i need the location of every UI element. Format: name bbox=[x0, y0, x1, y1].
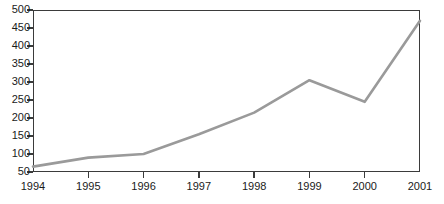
x-tick-label: 1997 bbox=[173, 180, 225, 192]
x-tick-mark bbox=[253, 172, 255, 178]
x-tick-mark bbox=[198, 172, 200, 178]
x-tick-mark bbox=[364, 172, 366, 178]
x-tick-mark bbox=[88, 172, 90, 178]
x-tick-label: 1995 bbox=[62, 180, 114, 192]
x-tick-label: 1999 bbox=[283, 180, 335, 192]
line-chart: 50100150200250300350400450500 1994199519… bbox=[0, 0, 444, 204]
x-tick-mark bbox=[309, 172, 311, 178]
x-tick-label: 2000 bbox=[339, 180, 391, 192]
x-tick-label: 1996 bbox=[118, 180, 170, 192]
x-axis: 19941995199619971998199920002001 bbox=[0, 0, 444, 204]
x-tick-label: 2001 bbox=[394, 180, 444, 192]
x-tick-label: 1994 bbox=[7, 180, 59, 192]
x-tick-mark bbox=[143, 172, 145, 178]
x-tick-label: 1998 bbox=[228, 180, 280, 192]
